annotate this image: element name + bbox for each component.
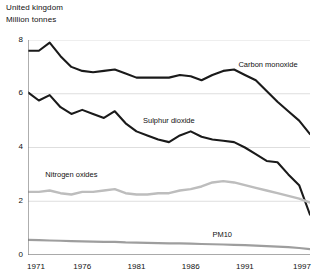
chart-container: United kingdom Million tonnes 02468 1971… <box>0 0 317 276</box>
x-tick-label: 1997 <box>293 262 311 271</box>
y-tick-label: 0 <box>7 250 23 259</box>
x-tick-label: 1971 <box>27 262 45 271</box>
y-tick-label: 4 <box>7 142 23 151</box>
y-tick-label: 6 <box>7 88 23 97</box>
chart-header: United kingdom Million tonnes <box>6 2 63 26</box>
x-tick-label: 1991 <box>236 262 254 271</box>
series-line-1 <box>28 92 310 214</box>
chart-subtitle: Million tonnes <box>6 14 63 26</box>
y-tick-label: 8 <box>7 35 23 44</box>
series-label-3: PM10 <box>212 230 232 239</box>
x-tick-label: 1986 <box>182 262 200 271</box>
series-line-3 <box>28 240 310 249</box>
y-tick-label: 2 <box>7 196 23 205</box>
line-chart-svg <box>28 40 310 255</box>
chart-title: United kingdom <box>6 2 63 14</box>
series-label-1: Sulphur dioxide <box>143 116 195 125</box>
x-tick-label: 1976 <box>73 262 91 271</box>
x-tick-label: 1981 <box>128 262 146 271</box>
series-label-2: Nitrogen oxides <box>45 170 97 179</box>
series-label-0: Carbon monoxide <box>238 60 297 69</box>
series-line-2 <box>28 181 310 203</box>
plot-area <box>28 40 310 255</box>
